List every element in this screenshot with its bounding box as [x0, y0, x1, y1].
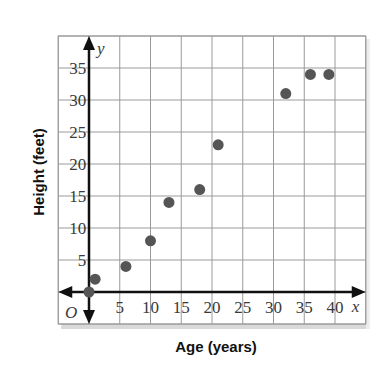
y-tick-label: 30 [69, 91, 86, 110]
y-tick-label: 20 [69, 155, 86, 174]
x-axis-title: Age (years) [175, 338, 257, 355]
x-tick-label: 35 [296, 298, 313, 317]
x-tick-label: 40 [327, 298, 344, 317]
x-tick-label: 5 [116, 298, 125, 317]
y-tick-label: 5 [78, 251, 87, 270]
x-tick-label: 15 [173, 298, 190, 317]
x-tick-label: 20 [204, 298, 221, 317]
data-point [305, 69, 316, 80]
y-tick-label: 10 [69, 219, 86, 238]
data-point [213, 139, 224, 150]
y-axis-title: Height (feet) [30, 128, 47, 216]
y-tick-label: 15 [69, 187, 86, 206]
y-tick-label: 25 [69, 123, 86, 142]
data-point [280, 88, 291, 99]
scatter-chart: 510152025303540 5101520253035 O x y Age … [0, 0, 384, 369]
data-point [163, 197, 174, 208]
x-axis-letter: x [351, 297, 360, 316]
data-point [145, 235, 156, 246]
y-tick-label: 35 [69, 59, 86, 78]
y-axis-letter: y [95, 39, 105, 58]
data-point [84, 287, 95, 298]
x-tick-label: 10 [142, 298, 159, 317]
data-point [323, 69, 334, 80]
data-point [90, 274, 101, 285]
data-point [194, 184, 205, 195]
x-tick-label: 30 [265, 298, 282, 317]
data-point [120, 261, 131, 272]
origin-label: O [65, 303, 77, 322]
x-tick-label: 25 [234, 298, 251, 317]
